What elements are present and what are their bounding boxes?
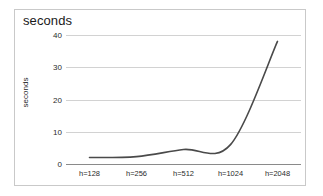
y-tick-label: 30 xyxy=(53,63,62,72)
y-tick-label: 0 xyxy=(58,160,62,169)
x-tick-label: h=2048 xyxy=(265,169,290,178)
y-axis-label: seconds xyxy=(21,65,30,121)
y-tick-label: 10 xyxy=(53,127,62,136)
axis-line-x xyxy=(66,164,301,165)
series-line-seconds xyxy=(66,35,301,164)
y-tick-label: 20 xyxy=(53,95,62,104)
x-tick-label: h=256 xyxy=(126,169,147,178)
chart-container: seconds seconds 010203040 h=128h=256h=51… xyxy=(14,9,306,186)
x-tick-label: h=512 xyxy=(173,169,194,178)
x-tick-label: h=1024 xyxy=(218,169,243,178)
x-tick-label: h=128 xyxy=(79,169,100,178)
plot-area: 010203040 h=128h=256h=512h=1024h=2048 xyxy=(66,35,301,164)
chart-title: seconds xyxy=(23,13,72,28)
y-tick-label: 40 xyxy=(53,31,62,40)
